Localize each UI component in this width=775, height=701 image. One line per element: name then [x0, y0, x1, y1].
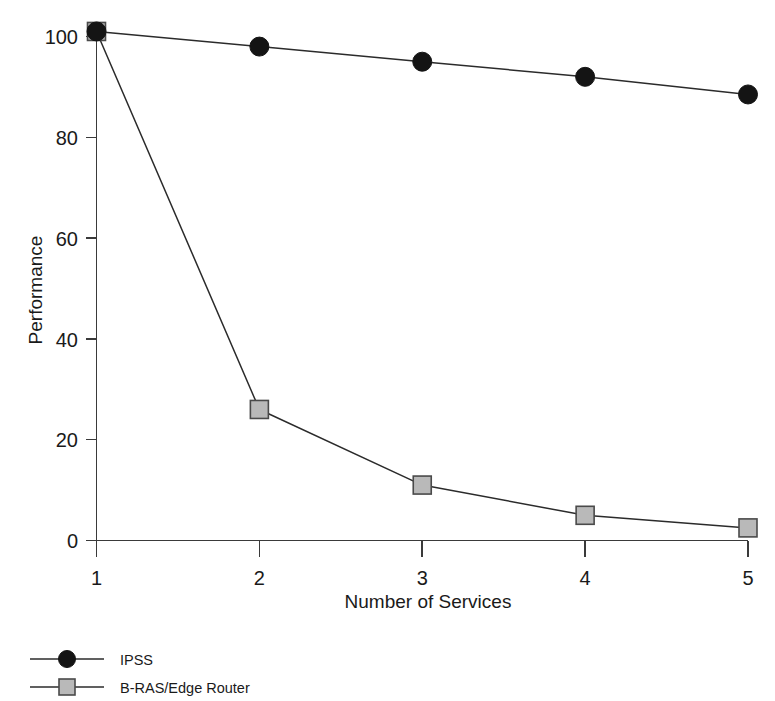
x-tick-label-3: 3: [417, 567, 428, 589]
data-point-marker-circle: [739, 85, 758, 104]
data-point-marker-circle: [250, 37, 269, 56]
data-point-marker-square: [739, 519, 757, 537]
data-point-marker-circle: [413, 52, 432, 71]
y-tick-label-100: 100: [45, 26, 78, 48]
legend-label-bras: B-RAS/Edge Router: [120, 680, 250, 696]
gray-square-icon: [59, 679, 75, 695]
legend-entry-bras[interactable]: B-RAS/Edge Router: [30, 679, 250, 696]
y-tick-label-20: 20: [56, 429, 78, 451]
x-tick-label-1: 1: [91, 567, 102, 589]
chart-figure: 100 80 60 40 20 0 1 2 3 4 5 Nu: [0, 0, 775, 701]
x-axis-title: Number of Services: [345, 591, 512, 612]
data-point-marker-square: [413, 476, 431, 494]
performance-line-chart: 100 80 60 40 20 0 1 2 3 4 5 Nu: [0, 0, 775, 701]
legend-label-ipss: IPSS: [120, 652, 153, 668]
y-tick-label-0: 0: [67, 530, 78, 552]
y-tick-label-60: 60: [56, 228, 78, 250]
data-point-marker-circle: [87, 22, 106, 41]
filled-circle-icon: [59, 651, 76, 668]
x-tick-label-5: 5: [742, 567, 753, 589]
y-tick-label-80: 80: [56, 127, 78, 149]
data-point-marker-circle: [576, 67, 595, 86]
y-tick-label-40: 40: [56, 329, 78, 351]
y-axis-title: Performance: [25, 236, 46, 345]
x-tick-label-4: 4: [580, 567, 591, 589]
data-point-marker-square: [576, 506, 594, 524]
data-point-marker-square: [250, 400, 268, 418]
x-tick-label-2: 2: [254, 567, 265, 589]
